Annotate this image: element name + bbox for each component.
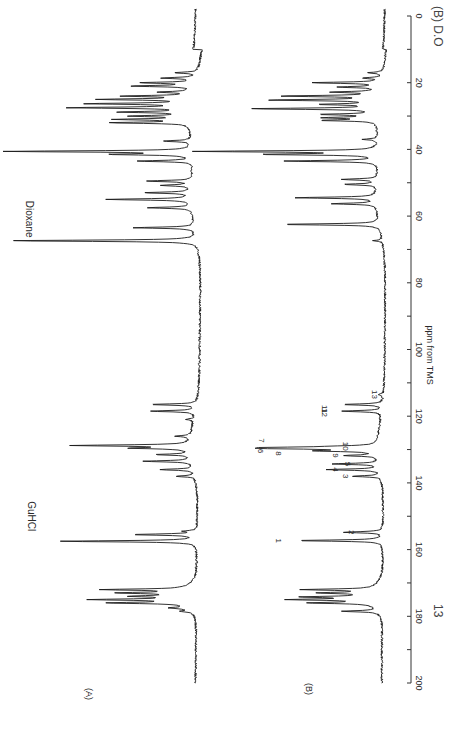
- x-tick-label: 180: [414, 609, 424, 624]
- spectrum-a: [3, 9, 203, 683]
- x-tick-label: 40: [414, 144, 424, 154]
- peak-number-2: 2: [347, 530, 356, 535]
- peak-number-6: 6: [256, 449, 265, 454]
- peak-number-1: 1: [274, 538, 283, 543]
- ppm-axis-ticks: 020406080100120140160180200: [407, 13, 424, 690]
- caption-superscript-13: 13: [431, 604, 445, 618]
- peak-number-3: 3: [341, 474, 350, 479]
- x-tick-label: 80: [414, 278, 424, 288]
- peak-number-9: 9: [331, 453, 340, 458]
- peak-number-10: 10: [341, 442, 350, 451]
- peak-number-labels: 12345678910111213: [256, 390, 379, 543]
- x-tick-label: 200: [414, 675, 424, 690]
- nmr-figure: 020406080100120140160180200 ppm from TMS…: [0, 0, 454, 730]
- x-tick-label: 20: [414, 78, 424, 88]
- spectrum-trace-b: [192, 9, 387, 683]
- spectrum-b: [192, 9, 387, 683]
- panel-label-a: (A): [84, 688, 94, 700]
- x-tick-label: 160: [414, 542, 424, 557]
- peak-number-8: 8: [274, 451, 283, 456]
- peak-number-5: 5: [343, 462, 352, 467]
- peak-number-7: 7: [257, 438, 266, 443]
- x-tick-label: 60: [414, 211, 424, 221]
- panel-label-b: (B): [304, 683, 314, 695]
- annotation-dioxane: Dioxane: [24, 201, 35, 238]
- spectrum-trace-a: [3, 9, 203, 683]
- peak-number-4: 4: [331, 467, 340, 472]
- caption-fragment: (B) D.O: [431, 6, 445, 47]
- axis-title: ppm from TMS: [425, 326, 435, 385]
- x-tick-label: 0: [414, 13, 424, 18]
- x-tick-label: 100: [414, 342, 424, 357]
- x-tick-label: 140: [414, 475, 424, 490]
- x-tick-label: 120: [414, 409, 424, 424]
- peak-number-12: 12: [320, 408, 329, 417]
- annotation-guhcl: GuHCl: [26, 501, 37, 531]
- peak-number-13: 13: [370, 390, 379, 399]
